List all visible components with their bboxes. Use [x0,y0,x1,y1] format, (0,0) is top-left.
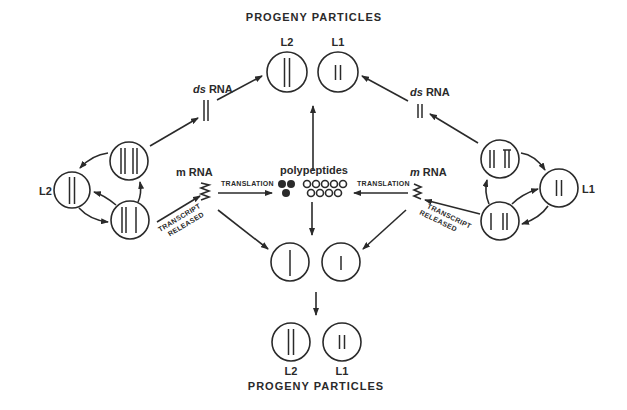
left-top-cell [110,142,148,180]
arrow-right-bottom-to-l1 [512,189,538,204]
arrow-right-cell-to-dsrna [430,114,478,143]
top-progeny-title: PROGENY PARTICLES [246,11,382,23]
top-l2-label: L2 [281,36,294,48]
bottom-l2-particle [272,323,310,361]
transcript-released-right: TRANSCRIPT RELEASED [419,201,473,238]
top-l1-label: L1 [332,36,345,48]
translation-right-label: TRANSLATION [357,180,410,187]
ds-rna-right-icon [418,104,422,118]
left-bottom-cell [111,201,149,239]
filled-polypeptides [278,180,295,197]
right-bottom-cell [481,202,519,240]
top-l2-particle [267,52,307,92]
translation-left-label: TRANSLATION [221,180,274,187]
arrow-left-top-to-l2 [80,153,108,168]
m-rna-right-label: m RNA [410,166,447,178]
m-rna-left-icon [201,183,209,200]
bottom-l1-particle [323,323,361,361]
polypeptides-label: polypeptides [280,164,348,176]
left-l2-cell [54,172,90,208]
arrow-right-bottom-to-top [486,180,489,204]
ds-rna-left-label: ds RNA [193,83,233,95]
arrow-left-cell-to-dsrna [150,118,198,146]
left-l2-label: L2 [39,185,52,197]
top-l1-particle [318,52,358,92]
m-rna-left-label: m RNA [176,166,213,178]
arrow-right-top-to-l1 [521,153,545,170]
ds-rna-right-label: ds RNA [410,86,450,98]
arrow-l1-to-right-bottom [522,206,548,224]
middle-l2-cell [271,243,309,281]
virus-replication-diagram: PROGENY PARTICLES L2 L1 ds RNA ds RNA L2 [0,0,627,410]
middle-l1-cell [322,243,360,281]
bottom-l2-label: L2 [285,365,298,377]
ds-rna-left-icon [204,100,208,121]
arrow-dsrna-to-top-l1 [362,76,408,101]
bottom-progeny-title: PROGENY PARTICLES [248,380,384,392]
open-polypeptides [304,181,347,197]
bottom-l1-label: L1 [336,365,349,377]
right-l1-cell [540,169,578,207]
m-rna-right-icon [414,184,421,199]
arrow-left-bottom-to-l2 [94,192,116,205]
right-l1-label: L1 [582,183,595,195]
arrow-left-bottom-to-top [138,182,141,202]
arrow-l2-to-left-bottom [79,208,108,222]
arrow-mrna-right-to-middle [363,210,406,249]
arrow-mrna-left-to-middle [218,210,268,249]
right-top-cell [481,140,519,178]
